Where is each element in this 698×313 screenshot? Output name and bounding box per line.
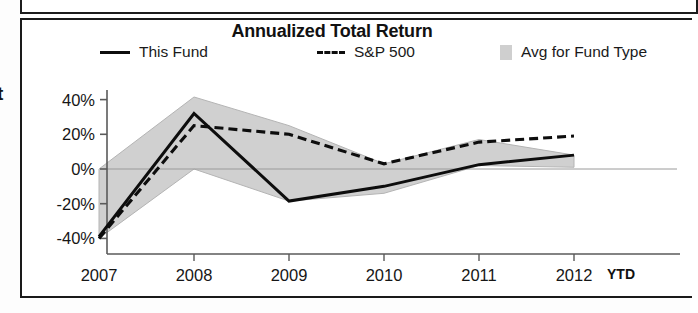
y-axis-tick-label: -20% xyxy=(56,195,95,213)
y-axis-tick-label: 40% xyxy=(62,91,95,109)
x-axis-tick-label: 2010 xyxy=(366,266,403,284)
annualized-total-return-panel: Annualized Total Return This Fund S&P 50… xyxy=(20,18,692,298)
x-axis-tick-label: 2012 xyxy=(556,266,593,284)
x-axis-tick-label: 2009 xyxy=(271,266,308,284)
x-axis-ytd-note: YTD xyxy=(607,266,635,282)
x-axis-tick-label: 2011 xyxy=(461,266,496,284)
y-axis-tick-label: 0% xyxy=(71,160,95,178)
clipped-edge-label: t xyxy=(0,84,2,103)
y-axis-tick-label: 20% xyxy=(62,125,95,143)
plot-svg: 40%20%0%-20%-40%200720082009201020112012… xyxy=(22,20,692,298)
x-axis-tick-label: 2007 xyxy=(81,266,118,284)
x-axis-tick-label: 2008 xyxy=(176,266,213,284)
y-axis-tick-label: -40% xyxy=(56,229,95,247)
band-avg-for-fund-type xyxy=(99,97,574,238)
plot-area: 40%20%0%-20%-40%200720082009201020112012… xyxy=(22,20,692,298)
panel-above-partial xyxy=(20,0,698,14)
